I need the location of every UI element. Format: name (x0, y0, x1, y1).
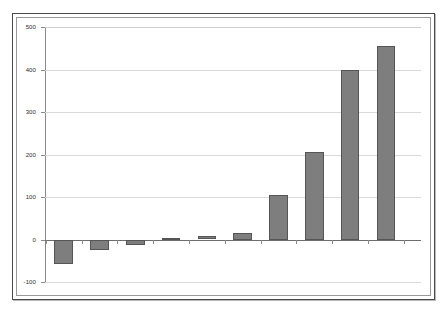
x-tick (296, 240, 297, 244)
y-tick-label--100: -100 (8, 279, 36, 285)
bar (377, 46, 396, 239)
y-tick-label-200: 200 (8, 152, 36, 158)
bar (126, 240, 145, 246)
x-tick (153, 240, 154, 244)
x-tick (332, 240, 333, 244)
x-tick (261, 240, 262, 244)
y-tick-label-300: 300 (8, 109, 36, 115)
y-tick-label-100: 100 (8, 194, 36, 200)
y-tick-label-0: 0 (8, 237, 36, 243)
figure: -1000100200300400500 (0, 0, 448, 313)
gridline-200 (45, 155, 421, 156)
x-tick (368, 240, 369, 244)
x-tick (117, 240, 118, 244)
x-tick (46, 240, 47, 244)
gridline-300 (45, 112, 421, 113)
plot-area (45, 27, 421, 282)
y-tick-label-500: 500 (8, 24, 36, 30)
bar (233, 233, 252, 239)
x-tick (404, 240, 405, 244)
bar (90, 240, 109, 251)
gridline-500 (45, 27, 421, 28)
x-tick (189, 240, 190, 244)
gridline-400 (45, 70, 421, 71)
bar (305, 152, 324, 239)
x-tick (225, 240, 226, 244)
gridline-100 (45, 197, 421, 198)
gridline--100 (45, 282, 421, 283)
x-tick (82, 240, 83, 244)
bar (54, 240, 73, 265)
bar (269, 195, 288, 240)
bar (162, 238, 181, 240)
bar (198, 236, 217, 239)
bar (341, 70, 360, 240)
y-tick-label-400: 400 (8, 67, 36, 73)
